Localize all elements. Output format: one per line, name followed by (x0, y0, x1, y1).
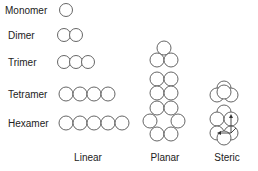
linear-tetramer (59, 87, 115, 101)
linear-monomer (60, 4, 73, 17)
row-label-tetramer: Tetramer (8, 89, 48, 100)
row-label-hexamer: Hexamer (8, 118, 49, 129)
row-label-trimer: Trimer (8, 57, 37, 68)
planar-hexamer (143, 101, 185, 141)
oligomer-diagram: Monomer Dimer Trimer Tetramer Hexamer (0, 0, 258, 171)
linear-hexamer (59, 116, 129, 130)
column-label-planar: Planar (151, 152, 181, 163)
steric-hexamer (210, 105, 238, 145)
column-label-steric: Steric (214, 152, 240, 163)
planar-tetramer (150, 72, 178, 100)
row-label-monomer: Monomer (5, 5, 48, 16)
row-label-dimer: Dimer (8, 30, 35, 41)
linear-trimer (58, 56, 95, 69)
steric-tetramer (210, 81, 238, 102)
column-label-linear: Linear (74, 152, 102, 163)
planar-trimer (150, 41, 178, 67)
linear-dimer (58, 29, 83, 42)
